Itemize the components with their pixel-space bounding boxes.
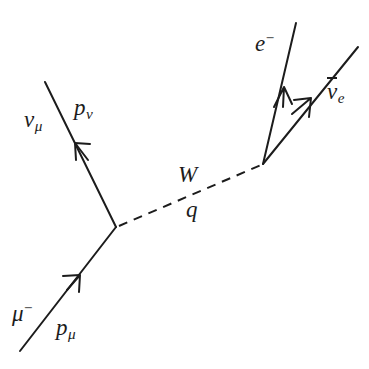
label-muon-neutrino-momentum: pν — [74, 96, 93, 121]
feynman-diagram: νμ pν μ− pμ W q e− νe — [0, 0, 369, 369]
label-muon: μ− — [12, 300, 33, 325]
label-muon-momentum: pμ — [56, 316, 76, 341]
muon-incoming-arrow-icon — [63, 275, 80, 292]
label-electron: e− — [255, 30, 274, 55]
label-muon-neutrino: νμ — [24, 108, 42, 133]
label-w-boson: W — [178, 163, 197, 186]
label-electron-antineutrino: νe — [327, 80, 344, 105]
label-boson-momentum: q — [186, 198, 198, 221]
